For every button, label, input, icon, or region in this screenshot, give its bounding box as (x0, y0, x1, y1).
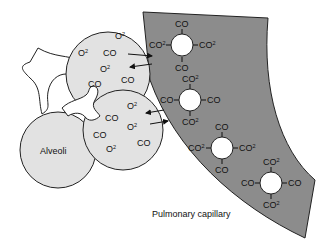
pulmonary-capillary (143, 12, 315, 238)
svg-text:CO: CO (215, 165, 229, 175)
svg-text:CO: CO (137, 138, 151, 148)
svg-text:CO: CO (105, 113, 119, 123)
svg-text:CO: CO (121, 75, 135, 85)
svg-text:CO: CO (207, 95, 221, 105)
alveoli-label: Alveoli (40, 146, 67, 156)
svg-text:CO: CO (215, 122, 229, 132)
svg-text:CO: CO (88, 79, 102, 89)
pulmonary-capillary-label: Pulmonary capillary (152, 209, 231, 219)
svg-text:CO: CO (241, 178, 255, 188)
svg-text:CO: CO (103, 48, 117, 58)
svg-text:CO: CO (175, 63, 189, 73)
svg-text:CO: CO (288, 178, 302, 188)
svg-text:CO: CO (160, 95, 174, 105)
svg-text:CO: CO (175, 19, 189, 29)
gas-exchange-diagram: O2 O2 CO O2 CO CO O2 CO O2 CO CO O2 Alve… (0, 0, 324, 243)
svg-text:CO: CO (93, 130, 107, 140)
